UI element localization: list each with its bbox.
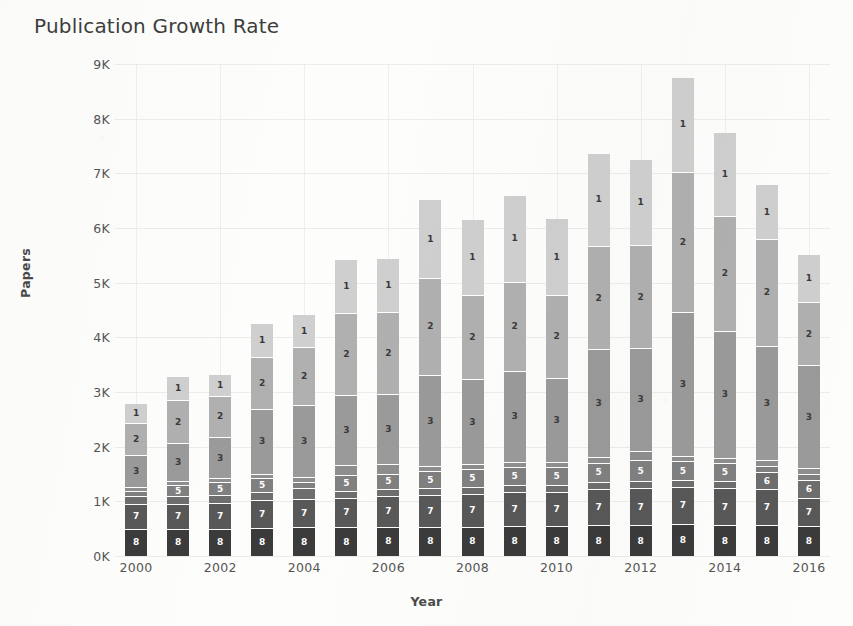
bar-segment-4[interactable] xyxy=(335,466,357,476)
bar-segment-7[interactable]: 7 xyxy=(672,488,694,526)
bar-2000[interactable]: 12378 xyxy=(125,404,147,556)
bar-segment-2[interactable]: 2 xyxy=(335,314,357,395)
bar-segment-8[interactable]: 8 xyxy=(714,526,736,556)
bar-segment-3[interactable]: 3 xyxy=(504,372,526,463)
bar-segment-7[interactable]: 7 xyxy=(125,505,147,530)
bar-segment-1[interactable]: 1 xyxy=(419,200,441,279)
bar-2015[interactable]: 123678 xyxy=(756,185,778,556)
bar-segment-2[interactable]: 2 xyxy=(672,173,694,313)
bar-segment-1[interactable]: 1 xyxy=(377,259,399,313)
bar-segment-1[interactable]: 1 xyxy=(251,324,273,358)
bar-segment-6[interactable]: 6 xyxy=(798,481,820,499)
bar-segment-8[interactable]: 8 xyxy=(798,527,820,556)
bar-2006[interactable]: 123578 xyxy=(377,259,399,556)
bar-segment-8[interactable]: 8 xyxy=(588,526,610,556)
bar-segment-1[interactable]: 1 xyxy=(504,196,526,282)
bar-2012[interactable]: 123578 xyxy=(630,160,652,556)
bar-segment-5[interactable]: 5 xyxy=(588,464,610,483)
bar-segment-7[interactable]: 7 xyxy=(546,493,568,527)
bar-segment-3[interactable]: 3 xyxy=(377,395,399,464)
bar-segment-6[interactable] xyxy=(546,486,568,493)
bar-segment-7[interactable]: 7 xyxy=(588,490,610,526)
bar-segment-2[interactable]: 2 xyxy=(462,296,484,380)
bar-segment-7[interactable]: 7 xyxy=(462,495,484,528)
bar-segment-8[interactable]: 8 xyxy=(672,525,694,556)
bar-segment-2[interactable]: 2 xyxy=(125,424,147,456)
bar-segment-5[interactable]: 5 xyxy=(504,468,526,486)
bar-2011[interactable]: 123578 xyxy=(588,154,610,556)
bar-segment-6[interactable] xyxy=(630,482,652,490)
bar-segment-3[interactable]: 3 xyxy=(630,349,652,451)
bar-segment-5[interactable]: 5 xyxy=(209,483,231,496)
bar-segment-1[interactable]: 1 xyxy=(714,133,736,217)
bar-segment-8[interactable]: 8 xyxy=(462,528,484,556)
bar-segment-3[interactable]: 3 xyxy=(419,376,441,468)
bar-segment-6[interactable] xyxy=(672,481,694,488)
bar-2008[interactable]: 123578 xyxy=(462,220,484,556)
bar-segment-1[interactable]: 1 xyxy=(209,375,231,397)
bar-segment-2[interactable]: 2 xyxy=(714,217,736,332)
bar-2016[interactable]: 123678 xyxy=(798,255,820,556)
bar-2002[interactable]: 123578 xyxy=(209,375,231,556)
bar-segment-2[interactable]: 2 xyxy=(546,296,568,379)
bar-segment-5[interactable]: 5 xyxy=(672,462,694,480)
bar-segment-5[interactable]: 5 xyxy=(630,461,652,481)
bar-segment-8[interactable]: 8 xyxy=(756,526,778,556)
bar-segment-8[interactable]: 8 xyxy=(377,528,399,556)
bar-segment-1[interactable]: 1 xyxy=(293,315,315,347)
bar-segment-8[interactable]: 8 xyxy=(504,527,526,556)
bar-segment-5[interactable]: 5 xyxy=(462,470,484,487)
bar-segment-8[interactable]: 8 xyxy=(251,529,273,556)
bar-segment-2[interactable]: 2 xyxy=(209,397,231,438)
bar-segment-3[interactable]: 3 xyxy=(125,456,147,488)
bar-segment-1[interactable]: 1 xyxy=(798,255,820,303)
bar-segment-6[interactable] xyxy=(293,489,315,499)
bar-segment-2[interactable]: 2 xyxy=(798,303,820,366)
bar-segment-2[interactable]: 2 xyxy=(588,247,610,351)
bar-segment-5[interactable]: 5 xyxy=(377,475,399,491)
bar-2005[interactable]: 123578 xyxy=(335,260,357,556)
bar-segment-6[interactable] xyxy=(504,486,526,493)
bar-segment-3[interactable]: 3 xyxy=(209,438,231,480)
bar-segment-5[interactable]: 5 xyxy=(335,476,357,492)
bar-segment-2[interactable]: 2 xyxy=(756,240,778,347)
bar-segment-6[interactable] xyxy=(251,493,273,502)
bar-segment-8[interactable]: 8 xyxy=(630,526,652,556)
bar-segment-2[interactable]: 2 xyxy=(504,283,526,372)
bar-2014[interactable]: 123578 xyxy=(714,133,736,556)
bar-segment-3[interactable]: 3 xyxy=(672,313,694,457)
bar-segment-7[interactable]: 7 xyxy=(504,493,526,527)
bar-segment-2[interactable]: 2 xyxy=(419,279,441,375)
bar-segment-1[interactable]: 1 xyxy=(335,260,357,315)
bar-2003[interactable]: 123578 xyxy=(251,324,273,556)
bar-segment-7[interactable]: 7 xyxy=(251,501,273,528)
bar-segment-1[interactable]: 1 xyxy=(546,219,568,296)
bar-segment-1[interactable]: 1 xyxy=(672,78,694,173)
bar-segment-3[interactable]: 3 xyxy=(251,410,273,475)
bar-segment-6[interactable] xyxy=(167,497,189,504)
bar-segment-4[interactable] xyxy=(377,465,399,475)
bar-segment-1[interactable]: 1 xyxy=(588,154,610,247)
bar-segment-8[interactable]: 8 xyxy=(125,530,147,556)
bar-segment-7[interactable]: 7 xyxy=(630,489,652,526)
bar-segment-7[interactable]: 7 xyxy=(756,490,778,526)
bar-segment-4[interactable] xyxy=(630,452,652,462)
bar-segment-7[interactable]: 7 xyxy=(377,497,399,528)
bar-segment-1[interactable]: 1 xyxy=(756,185,778,240)
bar-segment-1[interactable]: 1 xyxy=(125,404,147,424)
bar-segment-6[interactable] xyxy=(714,482,736,489)
bar-segment-3[interactable]: 3 xyxy=(714,332,736,459)
bar-segment-3[interactable]: 3 xyxy=(462,380,484,465)
bar-2010[interactable]: 123578 xyxy=(546,219,568,556)
bar-segment-3[interactable]: 3 xyxy=(293,406,315,478)
bar-2001[interactable]: 123578 xyxy=(167,377,189,556)
bar-segment-6[interactable] xyxy=(462,488,484,495)
bar-2009[interactable]: 123578 xyxy=(504,196,526,556)
bar-2004[interactable]: 12378 xyxy=(293,315,315,556)
bar-2013[interactable]: 123578 xyxy=(672,78,694,556)
bar-segment-8[interactable]: 8 xyxy=(546,527,568,556)
bar-segment-3[interactable]: 3 xyxy=(167,444,189,482)
bar-segment-6[interactable] xyxy=(209,496,231,504)
bar-segment-1[interactable]: 1 xyxy=(167,377,189,401)
bar-segment-6[interactable] xyxy=(125,497,147,505)
